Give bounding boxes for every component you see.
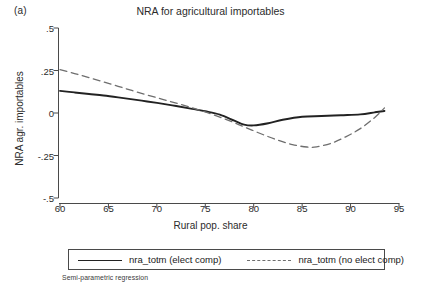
legend-item-solid: nra_totm (elect comp)	[78, 254, 221, 265]
series-line-dashed	[60, 70, 384, 148]
legend-item-dashed: nra_totm (no elect comp)	[247, 254, 404, 265]
legend-line-solid-icon	[78, 255, 122, 265]
series-lines	[60, 70, 384, 148]
legend: nra_totm (elect comp) nra_totm (no elect…	[68, 249, 385, 270]
series-line-solid	[60, 91, 384, 126]
legend-label-solid: nra_totm (elect comp)	[129, 254, 221, 265]
legend-line-dashed-icon	[247, 255, 291, 265]
legend-label-dashed: nra_totm (no elect comp)	[298, 254, 404, 265]
figure-footnote: Semi-parametric regression	[62, 274, 148, 281]
figure-panel: (a) NRA for agricultural importables NRA…	[0, 0, 421, 296]
